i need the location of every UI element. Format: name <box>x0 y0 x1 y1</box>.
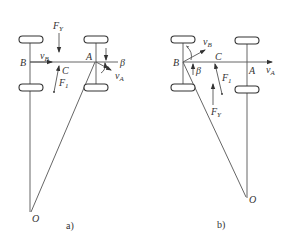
label-fy: FY <box>52 20 64 33</box>
panel-a: FY B vB C F1 A β vA O a) <box>19 20 125 232</box>
label-beta: β <box>119 57 125 68</box>
label-beta: β <box>195 65 201 76</box>
wheel-front-left <box>84 36 108 43</box>
velocity-b-arrow <box>183 50 205 62</box>
label-b: B <box>20 57 26 68</box>
label-va: vA <box>266 64 275 77</box>
label-c: C <box>215 51 222 62</box>
label-c: C <box>62 65 69 76</box>
wheel-rear-right <box>19 84 43 91</box>
wheel-front-right <box>84 84 108 91</box>
caption-a: a) <box>66 220 74 232</box>
label-va: vA <box>115 70 124 83</box>
caption-b: b) <box>217 219 225 231</box>
vehicle-kinematics-diagram: FY B vB C F1 A β vA O a) <box>0 0 287 246</box>
label-o: O <box>249 194 256 205</box>
force-f1-arrow <box>215 64 222 94</box>
label-b: B <box>173 57 179 68</box>
label-a: A <box>248 65 256 76</box>
label-a: A <box>85 51 93 62</box>
wheel-rear-left <box>19 36 43 43</box>
wheel-front-left <box>235 37 259 44</box>
panel-b: B vB β C F1 A vA FY O b) <box>171 36 275 231</box>
label-f1: F1 <box>58 77 69 90</box>
velocity-a-arrow <box>96 62 111 70</box>
radius-line-b-o <box>183 62 246 197</box>
wheel-rear-right <box>171 84 195 91</box>
label-vb: vB <box>40 50 49 63</box>
label-vb: vB <box>203 36 212 49</box>
label-f1: F1 <box>221 72 232 85</box>
wheel-front-right <box>235 86 259 93</box>
wheel-rear-left <box>171 36 195 43</box>
label-fy: FY <box>210 106 222 119</box>
label-o: O <box>32 213 39 224</box>
